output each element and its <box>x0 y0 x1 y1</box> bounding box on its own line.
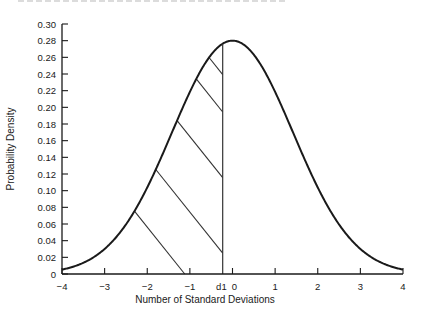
x-tick-label: 0 <box>232 281 237 292</box>
y-tick-label: 0.24 <box>38 69 57 80</box>
y-tick-label: 0.08 <box>38 202 57 213</box>
x-tick-label: 2 <box>315 281 320 292</box>
y-tick-label: 0.28 <box>38 35 57 46</box>
hatch-line <box>156 170 223 254</box>
y-tick-label: 0 <box>51 269 56 280</box>
d1-label: d1 <box>216 281 227 292</box>
x-tick-label: −4 <box>57 281 68 292</box>
y-tick-label: 0.12 <box>38 169 57 180</box>
x-tick-label: 1 <box>272 281 277 292</box>
density-curve <box>62 41 403 270</box>
normal-distribution-chart: 00.020.040.060.080.100.120.140.160.180.2… <box>0 0 427 323</box>
hatch-line <box>177 121 223 178</box>
x-axis-title: Number of Standard Deviations <box>135 294 275 305</box>
y-axis: 00.020.040.060.080.100.120.140.160.180.2… <box>38 19 69 280</box>
hatch-line <box>196 79 222 112</box>
y-tick-label: 0.26 <box>38 52 57 63</box>
x-axis: −4−3−2−101234 <box>57 268 406 292</box>
x-tick-label: 3 <box>358 281 363 292</box>
y-tick-label: 0.20 <box>38 102 57 113</box>
y-tick-label: 0.14 <box>38 152 57 163</box>
hatched-region <box>134 58 222 274</box>
y-tick-label: 0.16 <box>38 135 57 146</box>
y-tick-label: 0.02 <box>38 252 57 263</box>
y-tick-label: 0.06 <box>38 219 57 230</box>
x-tick-label: 4 <box>400 281 405 292</box>
y-tick-label: 0.04 <box>38 235 57 246</box>
y-tick-label: 0.10 <box>38 185 57 196</box>
x-tick-label: −3 <box>99 281 110 292</box>
hatch-line <box>209 58 223 75</box>
y-tick-label: 0.30 <box>38 19 57 30</box>
hatch-line <box>134 211 184 274</box>
x-tick-label: −2 <box>142 281 153 292</box>
x-tick-label: −1 <box>184 281 195 292</box>
y-axis-title: Probability Density <box>5 108 16 191</box>
y-tick-label: 0.22 <box>38 85 57 96</box>
y-tick-label: 0.18 <box>38 119 57 130</box>
